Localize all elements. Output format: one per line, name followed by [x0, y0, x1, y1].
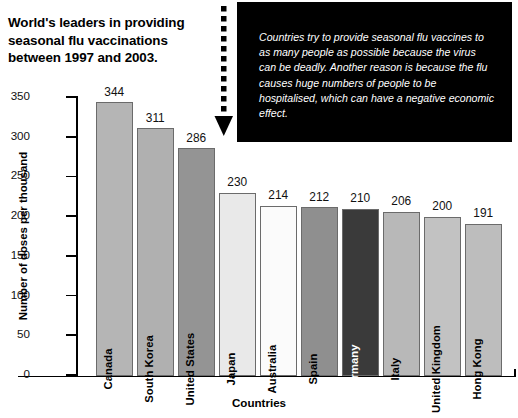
- bar-group[interactable]: Germany210: [342, 0, 380, 418]
- bar-category-label: Japan: [225, 352, 237, 385]
- bar-group[interactable]: Hong Kong191: [465, 0, 503, 418]
- bar[interactable]: Spain: [301, 207, 339, 375]
- bar-group[interactable]: United States286: [178, 0, 216, 418]
- bar-group[interactable]: Canada344: [96, 0, 134, 418]
- bar-category-label: Spain: [307, 353, 319, 384]
- bar-value-label: 191: [453, 206, 515, 220]
- bar[interactable]: Hong Kong: [465, 224, 503, 376]
- bar-category-label: Germany: [348, 344, 360, 393]
- bar-group[interactable]: Japan230: [219, 0, 257, 418]
- bar[interactable]: South Korea: [137, 128, 175, 375]
- bar[interactable]: Australia: [260, 206, 298, 376]
- bar-category-label: Italy: [389, 357, 401, 380]
- bar-category-label: United States: [184, 332, 196, 405]
- bar[interactable]: Canada: [96, 102, 134, 375]
- bar-category-label: Hong Kong: [471, 338, 483, 399]
- bar-category-label: United Kingdom: [430, 325, 442, 413]
- bar-series: Canada344South Korea311United States286J…: [0, 0, 518, 418]
- bar-group[interactable]: Spain212: [301, 0, 339, 418]
- bar-group[interactable]: Australia214: [260, 0, 298, 418]
- bar-category-label: Canada: [102, 348, 114, 389]
- bar-category-label: Australia: [266, 344, 278, 393]
- bar-group[interactable]: South Korea311: [137, 0, 175, 418]
- bar[interactable]: United Kingdom: [424, 217, 462, 376]
- chart-figure: World's leaders in providing seasonal fl…: [0, 0, 518, 418]
- bar[interactable]: Germany: [342, 209, 380, 376]
- bar-category-label: South Korea: [143, 335, 155, 403]
- bar[interactable]: Japan: [219, 193, 257, 376]
- bar[interactable]: Italy: [383, 212, 421, 376]
